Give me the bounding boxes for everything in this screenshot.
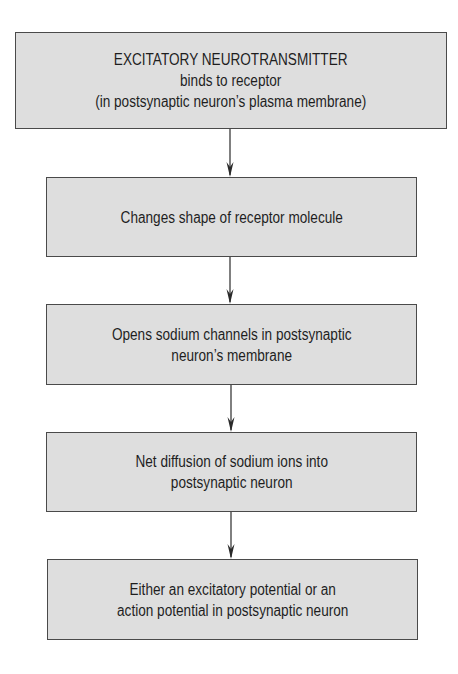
flow-step-1-text: EXCITATORY NEUROTRANSMITTER binds to rec… (15, 49, 446, 112)
flow-step-1-heading: EXCITATORY NEUROTRANSMITTER (15, 49, 446, 70)
down-arrow-icon (225, 385, 237, 432)
flow-step-5-box: Either an excitatory potential or an act… (47, 559, 418, 640)
flow-step-5-line-1: Either an excitatory potential or an (47, 579, 417, 600)
flow-step-4-line-2: postsynaptic neuron (46, 472, 416, 493)
down-arrow-icon (224, 257, 236, 304)
flow-step-4-box: Net diffusion of sodium ions into postsy… (46, 432, 417, 512)
flow-step-2-text: Changes shape of receptor molecule (46, 207, 416, 228)
flow-step-5-text: Either an excitatory potential or an act… (47, 579, 417, 621)
flow-step-4-text: Net diffusion of sodium ions into postsy… (46, 451, 416, 493)
down-arrow-icon (224, 129, 236, 177)
flow-step-1-box: EXCITATORY NEUROTRANSMITTER binds to rec… (15, 32, 447, 129)
flow-step-4-line-1: Net diffusion of sodium ions into (46, 451, 416, 472)
flow-step-1-line-2: binds to receptor (15, 70, 446, 91)
flow-step-2-box: Changes shape of receptor molecule (46, 177, 417, 257)
flow-step-3-line-2: neuron’s membrane (46, 345, 416, 366)
down-arrow-icon (225, 512, 237, 559)
flow-step-3-box: Opens sodium channels in postsynaptic ne… (46, 304, 417, 385)
flow-step-2-line-1: Changes shape of receptor molecule (46, 207, 416, 228)
flow-step-5-line-2: action potential in postsynaptic neuron (47, 600, 417, 621)
flow-step-3-line-1: Opens sodium channels in postsynaptic (46, 324, 416, 345)
flow-step-3-text: Opens sodium channels in postsynaptic ne… (46, 324, 416, 366)
flow-step-1-line-3: (in postsynaptic neuron’s plasma membran… (15, 91, 446, 112)
